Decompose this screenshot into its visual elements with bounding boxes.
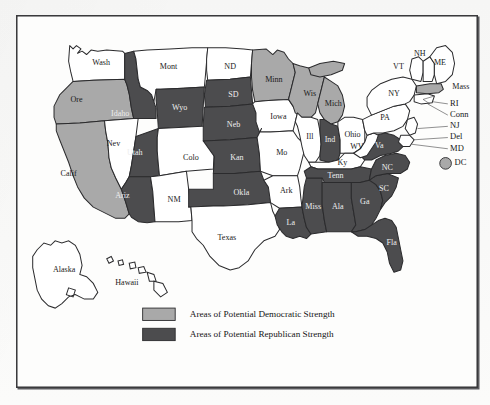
state-label-calif: Calif bbox=[61, 169, 77, 178]
state-label-nev: Nev bbox=[107, 139, 121, 148]
state-label-sd: SD bbox=[228, 90, 238, 99]
state-label-ind: Ind bbox=[325, 135, 336, 144]
state-label-ohio: Ohio bbox=[344, 130, 360, 139]
state-label-vt: VT bbox=[393, 62, 404, 71]
state-label-nd: ND bbox=[224, 62, 236, 71]
state-label-sc: SC bbox=[379, 184, 389, 193]
state-label-ill: Ill bbox=[306, 132, 314, 141]
dc-label: DC bbox=[455, 157, 467, 167]
map-legend: Areas of Potential Democratic Strength A… bbox=[143, 308, 335, 341]
map-frame-border: Wash Ore Calif Nev Idaho Mont Wyo Utah C… bbox=[16, 15, 478, 388]
state-label-pa: PA bbox=[380, 113, 390, 122]
state-label-ala: Ala bbox=[332, 202, 344, 211]
legend-swatch-democratic bbox=[143, 308, 176, 320]
state-label-utah: Utah bbox=[127, 148, 143, 157]
state-label-mich: Mich bbox=[325, 99, 342, 108]
state-label-mass: Mass bbox=[452, 82, 469, 91]
state-label-minn: Minn bbox=[265, 75, 282, 84]
state-shape-okla[interactable] bbox=[189, 171, 273, 207]
state-label-del: Del bbox=[450, 132, 463, 142]
state-label-colo: Colo bbox=[183, 153, 199, 162]
state-label-miss: Miss bbox=[305, 202, 321, 211]
state-label-tenn: Tenn bbox=[328, 171, 344, 180]
state-shape-nj[interactable] bbox=[405, 117, 417, 135]
state-label-nh: NH bbox=[414, 49, 426, 58]
state-label-neb: Neb bbox=[227, 120, 240, 129]
state-label-me: ME bbox=[434, 58, 446, 67]
state-shape-alaska[interactable] bbox=[33, 241, 98, 308]
state-label-idaho: Idaho bbox=[111, 109, 129, 118]
state-shapes bbox=[33, 46, 455, 309]
state-label-nm: NM bbox=[168, 195, 181, 204]
state-shape-vt[interactable] bbox=[410, 57, 423, 82]
state-label-fla: Fla bbox=[387, 238, 398, 247]
state-shape-mich-up[interactable] bbox=[309, 61, 345, 77]
state-label-ga: Ga bbox=[360, 197, 370, 206]
state-label-wyo: Wyo bbox=[172, 103, 187, 112]
legend-swatch-republican bbox=[143, 328, 176, 340]
page-background: Wash Ore Calif Nev Idaho Mont Wyo Utah C… bbox=[0, 0, 490, 405]
state-label-hawaii: Hawaii bbox=[115, 278, 139, 287]
state-label-conn: Conn bbox=[450, 109, 469, 119]
state-shape-de-md[interactable] bbox=[398, 135, 414, 146]
state-label-nj: NJ bbox=[450, 120, 460, 130]
state-label-wis: Wis bbox=[303, 89, 316, 98]
state-label-okla: Okla bbox=[234, 189, 250, 198]
state-label-mo: Mo bbox=[276, 148, 287, 157]
us-map-svg: Wash Ore Calif Nev Idaho Mont Wyo Utah C… bbox=[17, 16, 477, 387]
state-label-va: Va bbox=[375, 141, 384, 150]
state-shape-hawaii[interactable] bbox=[107, 256, 168, 296]
map-canvas: Wash Ore Calif Nev Idaho Mont Wyo Utah C… bbox=[17, 16, 477, 387]
state-label-wv: WV bbox=[350, 143, 364, 152]
legend-label-democratic: Areas of Potential Democratic Strength bbox=[190, 309, 335, 319]
northeast-leader-lines bbox=[412, 96, 448, 149]
state-shape-mass[interactable] bbox=[416, 84, 443, 94]
dc-marker-icon bbox=[440, 158, 452, 170]
state-label-alaska: Alaska bbox=[53, 265, 76, 274]
state-label-kan: Kan bbox=[230, 153, 243, 162]
state-label-md: MD bbox=[450, 143, 464, 153]
state-label-mont: Mont bbox=[160, 62, 178, 71]
state-label-ri: RI bbox=[450, 98, 459, 108]
state-label-la: La bbox=[286, 218, 295, 227]
legend-label-republican: Areas of Potential Republican Strength bbox=[190, 329, 334, 339]
state-label-texas: Texas bbox=[217, 233, 236, 242]
state-label-ariz: Ariz bbox=[115, 191, 130, 200]
state-label-nc: NC bbox=[382, 163, 393, 172]
dc-marker-group[interactable]: DC bbox=[440, 157, 467, 169]
state-label-iowa: Iowa bbox=[270, 112, 287, 121]
state-label-ore: Ore bbox=[70, 95, 83, 104]
state-label-ark: Ark bbox=[280, 186, 294, 195]
state-label-wash: Wash bbox=[92, 58, 110, 67]
state-label-ny: NY bbox=[388, 89, 400, 98]
state-label-ky: Ky bbox=[337, 158, 347, 167]
northeast-label-list: RI Conn NJ Del MD bbox=[450, 98, 469, 153]
